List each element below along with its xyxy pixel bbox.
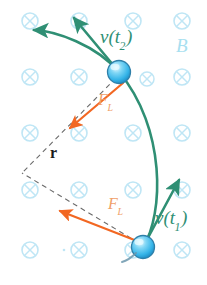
field-into-page-icon: [22, 125, 38, 141]
magnetic-field-label: B: [176, 36, 188, 55]
lorentz-force-bottom-arrow: [60, 211, 137, 241]
velocity-t2-label: v(t2): [100, 27, 132, 51]
field-into-page-icon: [140, 72, 154, 86]
particle-t2: [108, 61, 131, 84]
field-into-page-icon: [22, 69, 38, 85]
field-into-page-icon: [22, 242, 38, 258]
field-into-page-icon: [22, 182, 38, 198]
lorentz-force-bottom-label: FL: [108, 196, 123, 215]
field-into-page-icon: [174, 242, 190, 258]
field-into-page-icon: [71, 242, 87, 258]
field-into-page-icon: [125, 182, 141, 198]
field-into-page-icon: [174, 69, 190, 85]
trajectory-arc: [119, 72, 157, 247]
velocity-t1-label: v(t1): [155, 208, 187, 232]
field-into-page-icon: [71, 13, 87, 29]
field-into-page-icon: [174, 13, 190, 29]
field-into-page-icon: [71, 69, 87, 85]
radius-label: r: [50, 145, 57, 161]
field-into-page-icon: [22, 13, 38, 29]
field-dot-icon: [63, 249, 66, 252]
lorentz-force-top-arrow: [70, 83, 123, 128]
field-into-page-icon: [125, 125, 141, 141]
magnetic-force-diagram: v(t2) v(t1) B FL FL r: [0, 0, 207, 285]
lorentz-force-top-label: FL: [98, 92, 113, 111]
field-into-page-icon: [174, 125, 190, 141]
field-into-page-icon: [71, 125, 87, 141]
field-into-page-icon: [71, 182, 87, 198]
